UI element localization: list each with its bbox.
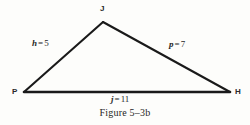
triangle-side-h-line [24, 22, 103, 92]
triangle-side-p-line [103, 22, 230, 92]
side-p-equals: = [174, 39, 181, 49]
side-p-variable: p [169, 39, 174, 49]
side-length-label-j: j=11 [111, 95, 129, 104]
vertex-label-p: P [12, 88, 17, 96]
side-length-label-p: p=7 [169, 40, 185, 49]
vertex-label-j: J [100, 5, 104, 13]
figure-caption: Figure 5–3b [0, 107, 250, 118]
side-h-value: 5 [44, 38, 49, 48]
side-length-label-h: h=5 [32, 39, 49, 48]
side-p-value: 7 [181, 39, 186, 49]
side-j-equals: = [114, 94, 121, 104]
figure-container: J P H h=5 p=7 j=11 Figure 5–3b [0, 0, 250, 125]
side-j-value: 11 [121, 94, 130, 104]
vertex-label-h: H [235, 88, 241, 96]
